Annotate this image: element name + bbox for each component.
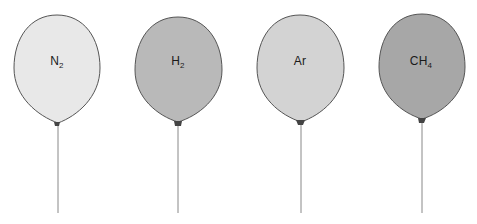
balloon-knot-icon: [418, 118, 426, 123]
balloon-h2: H2: [118, 0, 238, 224]
balloon-knot-icon: [54, 122, 60, 126]
balloon-knot-icon: [296, 120, 305, 125]
balloon-ch4-shape: [361, 0, 477, 224]
balloon-label-h2: H2: [118, 54, 238, 68]
balloon-h2-shape: [118, 0, 238, 224]
balloon-n2: N2: [0, 0, 117, 224]
balloon-diagram: N2 H2 Ar CH4: [0, 0, 477, 224]
balloon-n2-shape: [0, 0, 117, 224]
balloon-label-ch4: CH4: [361, 54, 477, 68]
balloon-ar-shape: [240, 0, 360, 224]
balloon-label-n2: N2: [0, 54, 117, 68]
balloon-label-ar: Ar: [240, 54, 360, 68]
balloon-ch4: CH4: [361, 0, 477, 224]
balloon-knot-icon: [174, 121, 182, 126]
balloon-ar: Ar: [240, 0, 360, 224]
